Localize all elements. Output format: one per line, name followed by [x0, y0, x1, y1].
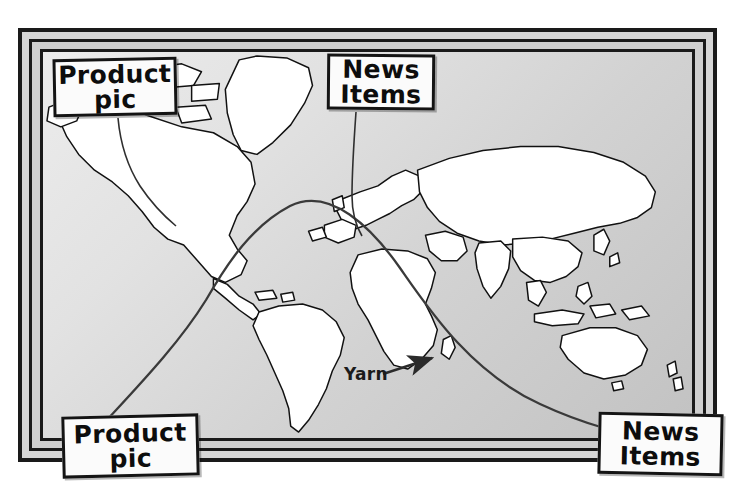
bulletin-board-scene: Product pic News Items Product pic News … — [0, 0, 735, 503]
note-news-items-top[interactable]: News Items — [327, 54, 435, 111]
note-line-2: Items — [619, 443, 701, 470]
note-product-pic-top[interactable]: Product pic — [52, 57, 177, 117]
note-line-2: pic — [109, 445, 152, 471]
note-news-items-bottom[interactable]: News Items — [597, 412, 723, 477]
note-line-2: pic — [94, 87, 137, 113]
note-line-2: Items — [340, 82, 421, 108]
yarn-annotation-label: Yarn — [344, 364, 388, 384]
note-line-1: News — [342, 57, 420, 83]
note-product-pic-bottom[interactable]: Product pic — [61, 413, 199, 478]
